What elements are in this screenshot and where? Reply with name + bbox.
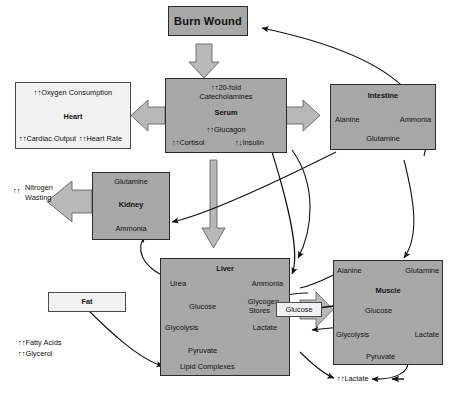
node-fat[interactable]: Fat	[48, 292, 126, 312]
heart-cardiac-output: ↑↑Cardiac Output	[19, 135, 76, 143]
liver-glucose: Glucose	[189, 303, 216, 311]
lactate-output-label: ↑↑Lactate	[337, 374, 369, 383]
muscle-pyruvate: Pyruvate	[366, 353, 395, 361]
block-arrow-serum-to-heart	[131, 100, 165, 131]
liver-glycolysis: Glycolysis	[165, 324, 198, 332]
node-liver[interactable]: Liver Urea Ammonia Glucose Glycogen Stor…	[160, 258, 290, 376]
liver-lactate: Lactate	[253, 324, 277, 332]
serum-insulin: ↑↓Insulin	[235, 139, 264, 147]
liver-ammonia: Ammonia	[252, 280, 283, 288]
heart-title: Heart	[16, 113, 130, 121]
nitrogen-wasting-line1: Nitrogen	[25, 183, 53, 192]
connector-to-liver-ammonia	[272, 152, 295, 274]
connector-intestine-to-muscle	[404, 160, 414, 258]
block-arrow-burn-to-serum	[189, 44, 219, 78]
connector-intestine-to-kidney	[172, 152, 336, 222]
serum-catecholamines-label: Catecholamines	[166, 93, 286, 101]
muscle-glucose: Glucose	[365, 307, 392, 315]
connector-fat-to-liver	[85, 307, 163, 366]
kidney-ammonia: Ammonia	[93, 225, 169, 233]
kidney-glutamine: Glutamine	[93, 178, 169, 186]
node-serum[interactable]: ↑↑20-fold Catecholamines Serum ↑↑Glucago…	[165, 78, 287, 153]
kidney-title: Kidney	[93, 201, 169, 209]
node-heart[interactable]: ↑↑Oxygen Consumption Heart ↑↑Cardiac Out…	[15, 82, 131, 149]
muscle-alanine: Alanine	[337, 267, 362, 275]
block-arrow-serum-to-liver	[202, 160, 225, 248]
muscle-glycolysis: Glycolysis	[336, 331, 369, 339]
node-muscle[interactable]: Alanine Glutamine Muscle Glucose Glycoly…	[333, 260, 443, 365]
liver-glycogen-stores-line2: Stores	[249, 307, 270, 315]
intestine-glutamine: Glutamine	[331, 135, 435, 143]
heart-heart-rate: ↑↑Heart Rate	[79, 135, 122, 143]
serum-title: Serum	[166, 109, 286, 117]
fat-glycerol: ↑↑Glycerol	[18, 349, 53, 358]
connector-liver-to-lactate-output	[300, 352, 334, 378]
glucose-transfer-label: Glucose	[277, 306, 321, 314]
burn-wound-label: Burn Wound	[169, 15, 247, 27]
node-kidney[interactable]: Glutamine Kidney Ammonia	[92, 172, 170, 240]
fat-title: Fat	[49, 298, 125, 306]
liver-urea: Urea	[170, 280, 186, 288]
node-glucose-transfer[interactable]: Glucose	[276, 302, 322, 317]
intestine-title: Intestine	[331, 92, 435, 100]
node-burn-wound[interactable]: Burn Wound	[168, 6, 248, 36]
serum-cortisol: ↑↑Cortisol	[172, 139, 204, 147]
block-arrow-kidney-to-nitrogen	[47, 181, 92, 222]
intestine-ammonia: Ammonia	[400, 116, 431, 124]
muscle-title: Muscle	[334, 287, 442, 295]
fat-fatty-acids: ↑↑Fatty Acids	[18, 338, 62, 347]
heart-oxygen-consumption: ↑↑Oxygen Consumption	[16, 89, 130, 97]
node-intestine[interactable]: Intestine Alanine Ammonia Glutamine	[330, 84, 436, 150]
diagram-canvas: Burn Wound ↑↑20-fold Catecholamines Seru…	[0, 0, 451, 398]
muscle-lactate: Lactate	[415, 331, 439, 339]
liver-pyruvate: Pyruvate	[188, 347, 217, 355]
muscle-glutamine: Glutamine	[405, 267, 439, 275]
liver-title: Liver	[161, 265, 289, 273]
block-arrow-serum-to-intestine	[286, 100, 320, 131]
intestine-alanine: Alanine	[335, 116, 360, 124]
serum-glucagon: ↑↑Glucagon	[166, 126, 286, 134]
nitrogen-wasting-arrows: ↑↑	[13, 186, 20, 195]
nitrogen-wasting-line2: Wasting	[25, 193, 51, 202]
liver-lipid-complexes: Lipid Complexes	[180, 363, 235, 371]
